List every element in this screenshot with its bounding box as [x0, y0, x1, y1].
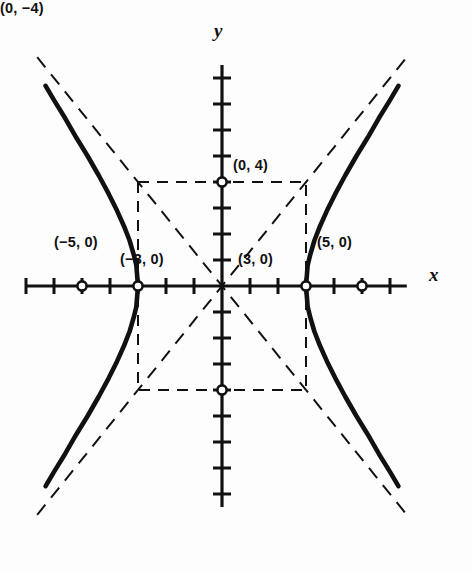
point-label-focus-left: (−5, 0) — [54, 234, 98, 250]
hyperbola-branch — [306, 86, 398, 286]
x-axis-label: x — [429, 264, 439, 286]
marker-vertex — [133, 281, 142, 290]
marker-focus — [357, 281, 366, 290]
marker-covertex — [217, 177, 226, 186]
marker-focus — [77, 281, 86, 290]
point-label-vertex-left: (−3, 0) — [120, 251, 164, 267]
hyperbola-branch — [306, 286, 398, 486]
point-label-covertex-bottom: (0, −4) — [0, 0, 44, 16]
point-label-focus-right: (5, 0) — [317, 234, 352, 250]
hyperbola-figure: x y (−5, 0) (−3, 0) (3, 0) (5, 0) (0, 4)… — [0, 0, 472, 574]
point-label-vertex-right: (3, 0) — [238, 251, 273, 267]
point-label-covertex-top: (0, 4) — [233, 157, 268, 173]
y-axis-label: y — [214, 20, 222, 42]
graph-canvas — [0, 0, 472, 574]
hyperbola-branch — [46, 286, 138, 486]
marker-covertex — [217, 385, 226, 394]
marker-vertex — [301, 281, 310, 290]
